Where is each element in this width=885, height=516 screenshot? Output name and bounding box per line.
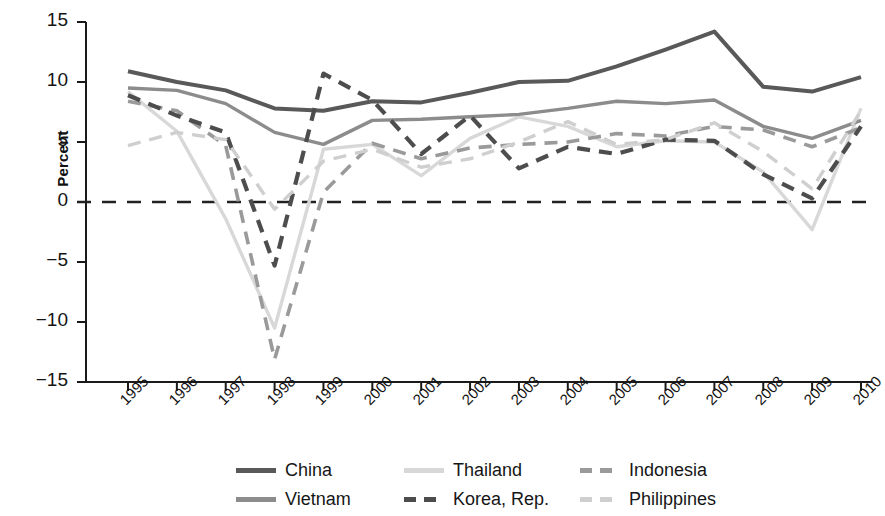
- legend-label-vietnam: Vietnam: [285, 489, 351, 510]
- series-line-china: [128, 32, 861, 111]
- legend-item-china[interactable]: China: [236, 460, 404, 481]
- legend-swatch-korea-rep: [404, 497, 444, 502]
- legend-item-vietnam[interactable]: Vietnam: [236, 489, 404, 510]
- chart-legend: ChinaThailandIndonesiaVietnamKorea, Rep.…: [236, 456, 796, 516]
- legend-swatch-thailand: [404, 468, 444, 473]
- y-tick-label: 10: [22, 69, 68, 91]
- legend-item-indonesia[interactable]: Indonesia: [580, 460, 770, 481]
- legend-swatch-indonesia: [580, 468, 620, 473]
- legend-label-indonesia: Indonesia: [629, 460, 707, 481]
- series-line-korea-rep: [128, 74, 861, 266]
- series-line-thailand: [128, 92, 861, 328]
- legend-swatch-vietnam: [236, 497, 276, 502]
- y-tick-label: −15: [22, 369, 68, 391]
- y-tick-label: 5: [22, 129, 68, 151]
- legend-swatch-china: [236, 468, 276, 473]
- legend-swatch-philippines: [580, 497, 620, 502]
- legend-label-korea-rep: Korea, Rep.: [453, 489, 549, 510]
- legend-label-philippines: Philippines: [629, 489, 716, 510]
- legend-row: ChinaThailandIndonesia: [236, 456, 796, 485]
- legend-label-thailand: Thailand: [453, 460, 522, 481]
- y-tick-label: −10: [22, 309, 68, 331]
- legend-item-korea-rep[interactable]: Korea, Rep.: [404, 489, 580, 510]
- legend-label-china: China: [285, 460, 332, 481]
- legend-item-philippines[interactable]: Philippines: [580, 489, 770, 510]
- data-series-group: [128, 32, 861, 360]
- y-tick-label: 15: [22, 9, 68, 31]
- legend-row: VietnamKorea, Rep.Philippines: [236, 485, 796, 514]
- legend-item-thailand[interactable]: Thailand: [404, 460, 580, 481]
- y-tick-label: 0: [22, 189, 68, 211]
- y-tick-label: −5: [22, 249, 68, 271]
